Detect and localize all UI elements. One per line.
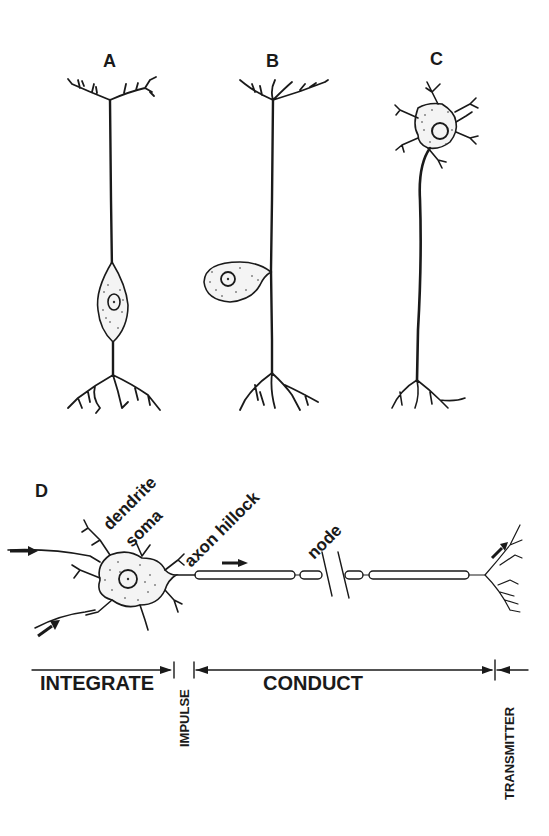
neuron-c: C	[392, 49, 478, 408]
myelin-segment	[345, 571, 363, 579]
neuron-b: B	[204, 51, 328, 410]
input-arrow-icon	[28, 546, 38, 556]
myelin-segment	[195, 571, 295, 579]
soma-c	[415, 104, 456, 149]
label-impulse: IMPULSE	[177, 689, 192, 747]
input-arrow-icon	[50, 620, 60, 630]
neuron-diagram: A B C	[0, 0, 549, 836]
panel-label-a: A	[103, 51, 116, 71]
soma-b	[204, 262, 271, 302]
panel-label-c: C	[430, 49, 443, 69]
soma-a	[98, 262, 128, 342]
label-transmitter: TRANSMITTER	[502, 706, 517, 800]
conduction-arrow-icon	[238, 559, 248, 567]
myelin-segment	[300, 571, 322, 579]
function-bar: INTEGRATE IMPULSE CONDUCT TRANSMITTER	[32, 660, 528, 800]
neuron-d: D dendrite soma axon hillock node	[8, 473, 522, 636]
label-conduct: CONDUCT	[263, 672, 363, 694]
panel-label-b: B	[266, 51, 279, 71]
label-axon-hillock: axon hillock	[180, 488, 263, 571]
label-integrate: INTEGRATE	[40, 672, 154, 694]
panel-label-d: D	[35, 481, 48, 501]
neuron-a: A	[68, 51, 160, 413]
myelin-segment	[369, 571, 469, 579]
